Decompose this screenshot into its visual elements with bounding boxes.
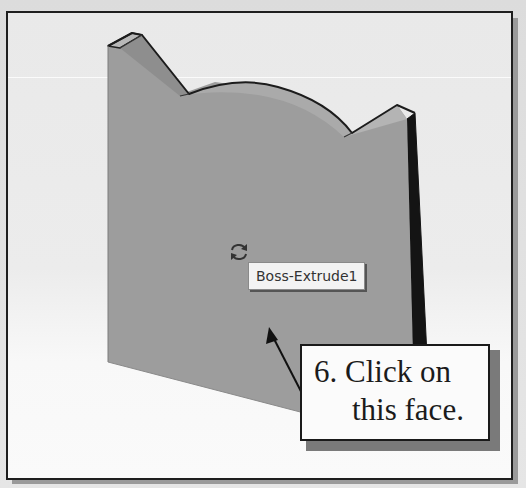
callout-step-text-2: this face. [352,390,464,430]
callout-step-text: 6. Click on [314,352,451,392]
selection-tooltip: Boss-Extrude1 [248,262,365,290]
rotate-icon [228,241,250,263]
instruction-callout: 6. Click on this face. [300,344,490,441]
